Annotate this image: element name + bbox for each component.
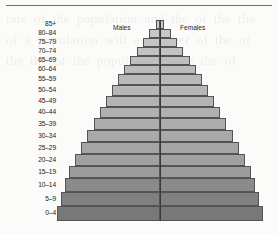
bar-males-40-44 [100,107,160,118]
bar-females-20-24 [160,154,245,166]
bar-males-30-34 [87,130,160,142]
bar-females-10-14 [160,178,255,192]
bar-males-0-4 [57,206,160,221]
header-rule [6,5,272,6]
bar-females-80-84 [160,29,171,38]
bar-males-45-49 [106,96,160,107]
series-label-males: Males [113,25,131,32]
bar-males-10-14 [65,178,160,192]
bar-males-65-69 [130,56,160,65]
bar-males-50-54 [112,85,160,96]
bar-females-15-19 [160,166,251,178]
bar-males-55-59 [118,74,160,85]
bar-females-60-64 [160,65,196,74]
bar-females-0-4 [160,206,263,221]
bar-females-50-54 [160,85,208,96]
bar-females-30-34 [160,130,233,142]
bar-females-75-79 [160,38,177,47]
bar-males-75-79 [143,38,160,47]
center-axis-line [160,20,161,221]
bar-males-60-64 [124,65,160,74]
bar-males-15-19 [69,166,160,178]
bar-females-35-39 [160,118,226,130]
pyramid-bars [0,0,278,234]
bar-males-20-24 [75,154,160,166]
bar-males-80-84 [149,29,160,38]
bar-females-25-29 [160,142,239,154]
bar-females-45-49 [160,96,214,107]
bar-males-5-9 [61,192,160,206]
series-label-females: Females [180,25,205,32]
bar-females-40-44 [160,107,220,118]
bar-males-70-74 [137,47,160,56]
bar-males-25-29 [81,142,160,154]
population-pyramid-chart: 85+80–8475–7970–7465–6960–6455–5950–5445… [0,0,278,234]
bar-males-35-39 [94,118,160,130]
bar-females-70-74 [160,47,183,56]
bar-females-55-59 [160,74,202,85]
bar-females-5-9 [160,192,259,206]
bar-females-65-69 [160,56,190,65]
